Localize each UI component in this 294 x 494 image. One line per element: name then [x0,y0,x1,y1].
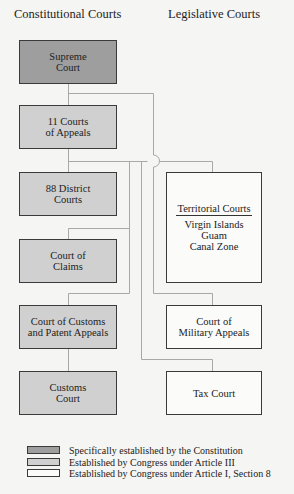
court-of-claims-box: Court of Claims [19,239,117,283]
box-label-line: Court [56,62,80,73]
district-courts-box: 88 District Courts [19,172,117,216]
territorial-courts-box: Territorial Courts Virgin Islands Guam C… [166,172,262,283]
legend-label: Specifically established by the Constitu… [69,445,243,456]
box-label-line: Guam [201,230,227,241]
box-label-line: Courts [54,194,82,205]
legend-item-constitution: Specifically established by the Constitu… [27,445,243,455]
legend-swatch-white [27,469,60,477]
box-label-line: Virgin Islands [185,219,244,230]
box-label-line: Customs [50,382,87,393]
box-label-line: of Appeals [45,127,90,138]
customs-patent-appeals-box: Court of Customs and Patent Appeals [19,305,117,349]
box-label-line: Tax Court [193,388,235,399]
customs-court-box: Customs Court [19,371,117,415]
box-label-line: Court of Customs [31,316,106,327]
box-label-line: Court of [196,316,231,327]
box-label-line: Claims [53,261,83,272]
box-label-line: Military Appeals [179,327,250,338]
legend-label: Established by Congress under Article II… [69,457,235,468]
box-label-line: 11 Courts [48,116,89,127]
line-appeals-territorial [69,162,213,173]
box-label-line: Court of [50,250,85,261]
tax-court-box: Tax Court [166,371,262,415]
legend-swatch-dark [27,446,60,454]
box-label-line: and Patent Appeals [28,327,108,338]
courts-of-appeals-box: 11 Courts of Appeals [19,105,117,149]
supreme-court-box: Supreme Court [19,40,117,84]
legend-label: Established by Congress under Article I,… [69,468,271,479]
legend-swatch-light [27,458,60,466]
territorial-courts-title: Territorial Courts [176,203,251,216]
box-label-line: Supreme [49,51,86,62]
box-label-line: Court [56,393,80,404]
box-label-line: 88 District [46,183,91,194]
legend-item-article-iii: Established by Congress under Article II… [27,457,235,467]
military-appeals-box: Court of Military Appeals [166,305,262,349]
box-label-line: Canal Zone [190,241,239,252]
legend-item-article-i: Established by Congress under Article I,… [27,468,271,478]
line-to-claims [69,229,130,240]
